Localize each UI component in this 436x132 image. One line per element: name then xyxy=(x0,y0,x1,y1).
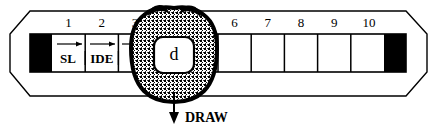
blob-token-label: d xyxy=(170,44,179,64)
cell-number-8: 8 xyxy=(298,15,305,30)
cell-number-2: 2 xyxy=(99,15,106,30)
highlight-blob: d xyxy=(131,6,217,102)
draw-callout-label: DRAW xyxy=(185,110,228,125)
cell-number-9: 9 xyxy=(331,15,338,30)
tape-diagram-figure: 1 2 3 4 5 6 7 8 9 10 xyxy=(0,0,436,132)
cell-number-6: 6 xyxy=(231,15,238,30)
segment-label-sl: SL xyxy=(60,51,76,66)
figure-canvas: 1 2 3 4 5 6 7 8 9 10 xyxy=(0,0,436,132)
draw-arrow-head xyxy=(169,112,179,124)
cell-number-10: 10 xyxy=(363,15,376,30)
cell-number-1: 1 xyxy=(65,15,72,30)
segment-label-ide: IDE xyxy=(90,51,113,66)
cell-number-7: 7 xyxy=(265,15,272,30)
tape-left-end-cap xyxy=(30,34,52,72)
tape-right-end-cap xyxy=(384,34,406,72)
